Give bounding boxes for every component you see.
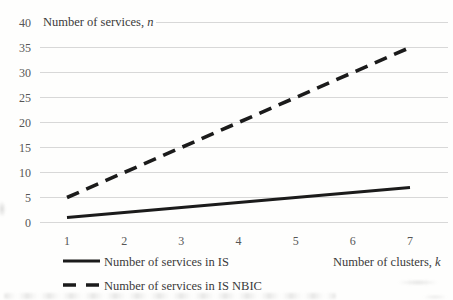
y-tick-label-10: 10 (19, 166, 31, 180)
x-axis-title-variable: k (435, 255, 441, 269)
legend-label-is: Number of services in IS (104, 255, 229, 269)
x-tick-label-7: 7 (407, 234, 413, 248)
line-chart-canvas: Number of services, n 051015202530354012… (0, 0, 453, 300)
x-tick-label-6: 6 (350, 234, 356, 248)
y-tick-label-20: 20 (19, 116, 31, 130)
legend-label-is-nbic: Number of services in IS NBIC (104, 279, 262, 293)
x-tick-label-2: 2 (121, 234, 127, 248)
legend: Number of services in IS Number of servi… (63, 255, 262, 293)
axis-tick-labels: 05101520253035401234567 (19, 16, 413, 249)
y-tick-label-0: 0 (25, 216, 31, 230)
y-tick-label-30: 30 (19, 66, 31, 80)
x-tick-label-4: 4 (236, 234, 242, 248)
y-axis-title: Number of services, n (43, 15, 153, 29)
x-axis-title: Number of clusters, k (333, 255, 441, 269)
x-tick-label-5: 5 (293, 234, 299, 248)
x-tick-label-3: 3 (178, 234, 184, 248)
chart: Number of services, n 051015202530354012… (0, 0, 453, 300)
x-tick-label-1: 1 (64, 234, 70, 248)
y-axis-title-text: Number of services, (43, 15, 147, 29)
y-tick-label-5: 5 (25, 191, 31, 205)
y-tick-label-40: 40 (19, 16, 31, 30)
y-axis-title-variable: n (147, 15, 153, 29)
y-tick-label-15: 15 (19, 141, 31, 155)
y-tick-label-35: 35 (19, 41, 31, 55)
series-line-is (67, 188, 410, 218)
x-axis-title-text: Number of clusters, (333, 255, 435, 269)
gridlines (40, 23, 448, 223)
y-tick-label-25: 25 (19, 91, 31, 105)
